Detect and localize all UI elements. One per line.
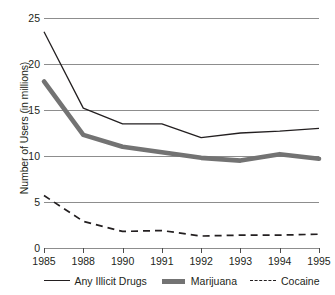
y-tick-label-25: 25	[16, 13, 40, 23]
series-line-any-illicit-drugs	[44, 32, 319, 138]
x-tick-mark-1995	[319, 248, 320, 253]
x-tick-label-1992: 1992	[181, 255, 221, 267]
x-tick-label-1991: 1991	[142, 255, 182, 267]
x-axis-ticks: 19851988199019911992199319941995	[44, 248, 319, 274]
series-line-cocaine	[44, 196, 319, 236]
x-tick-mark-1985	[44, 248, 45, 253]
x-tick-mark-1993	[240, 248, 241, 253]
legend-item-any-illicit-drugs[interactable]: Any Illicit Drugs	[44, 275, 147, 287]
x-tick-mark-1994	[280, 248, 281, 253]
x-tick-label-1995: 1995	[299, 255, 335, 267]
solid-thick-line-icon	[160, 276, 186, 286]
x-tick-label-1990: 1990	[103, 255, 143, 267]
y-tick-label-15: 15	[16, 105, 40, 115]
y-tick-label-5: 5	[16, 197, 40, 207]
y-tick-label-10: 10	[16, 151, 40, 161]
x-tick-mark-1991	[162, 248, 163, 253]
x-tick-label-1994: 1994	[260, 255, 300, 267]
x-tick-label-1988: 1988	[63, 255, 103, 267]
series-container	[44, 18, 319, 248]
legend-label: Marijuana	[191, 275, 237, 287]
solid-thin-line-icon	[44, 276, 70, 286]
x-tick-mark-1988	[83, 248, 84, 253]
x-tick-mark-1992	[201, 248, 202, 253]
legend-item-cocaine[interactable]: Cocaine	[250, 275, 320, 287]
x-tick-mark-1990	[123, 248, 124, 253]
series-line-marijuana	[44, 81, 319, 160]
x-tick-label-1993: 1993	[220, 255, 260, 267]
plot-area: 0510152025 19851988199019911992199319941…	[44, 18, 319, 248]
y-tick-label-20: 20	[16, 59, 40, 69]
dashed-line-icon	[250, 276, 276, 286]
x-tick-label-1985: 1985	[24, 255, 64, 267]
legend-item-marijuana[interactable]: Marijuana	[160, 275, 237, 287]
legend-label: Any Illicit Drugs	[75, 275, 147, 287]
y-tick-label-0: 0	[16, 243, 40, 253]
legend-label: Cocaine	[281, 275, 320, 287]
chart-legend: Any Illicit DrugsMarijuanaCocaine	[44, 272, 319, 290]
